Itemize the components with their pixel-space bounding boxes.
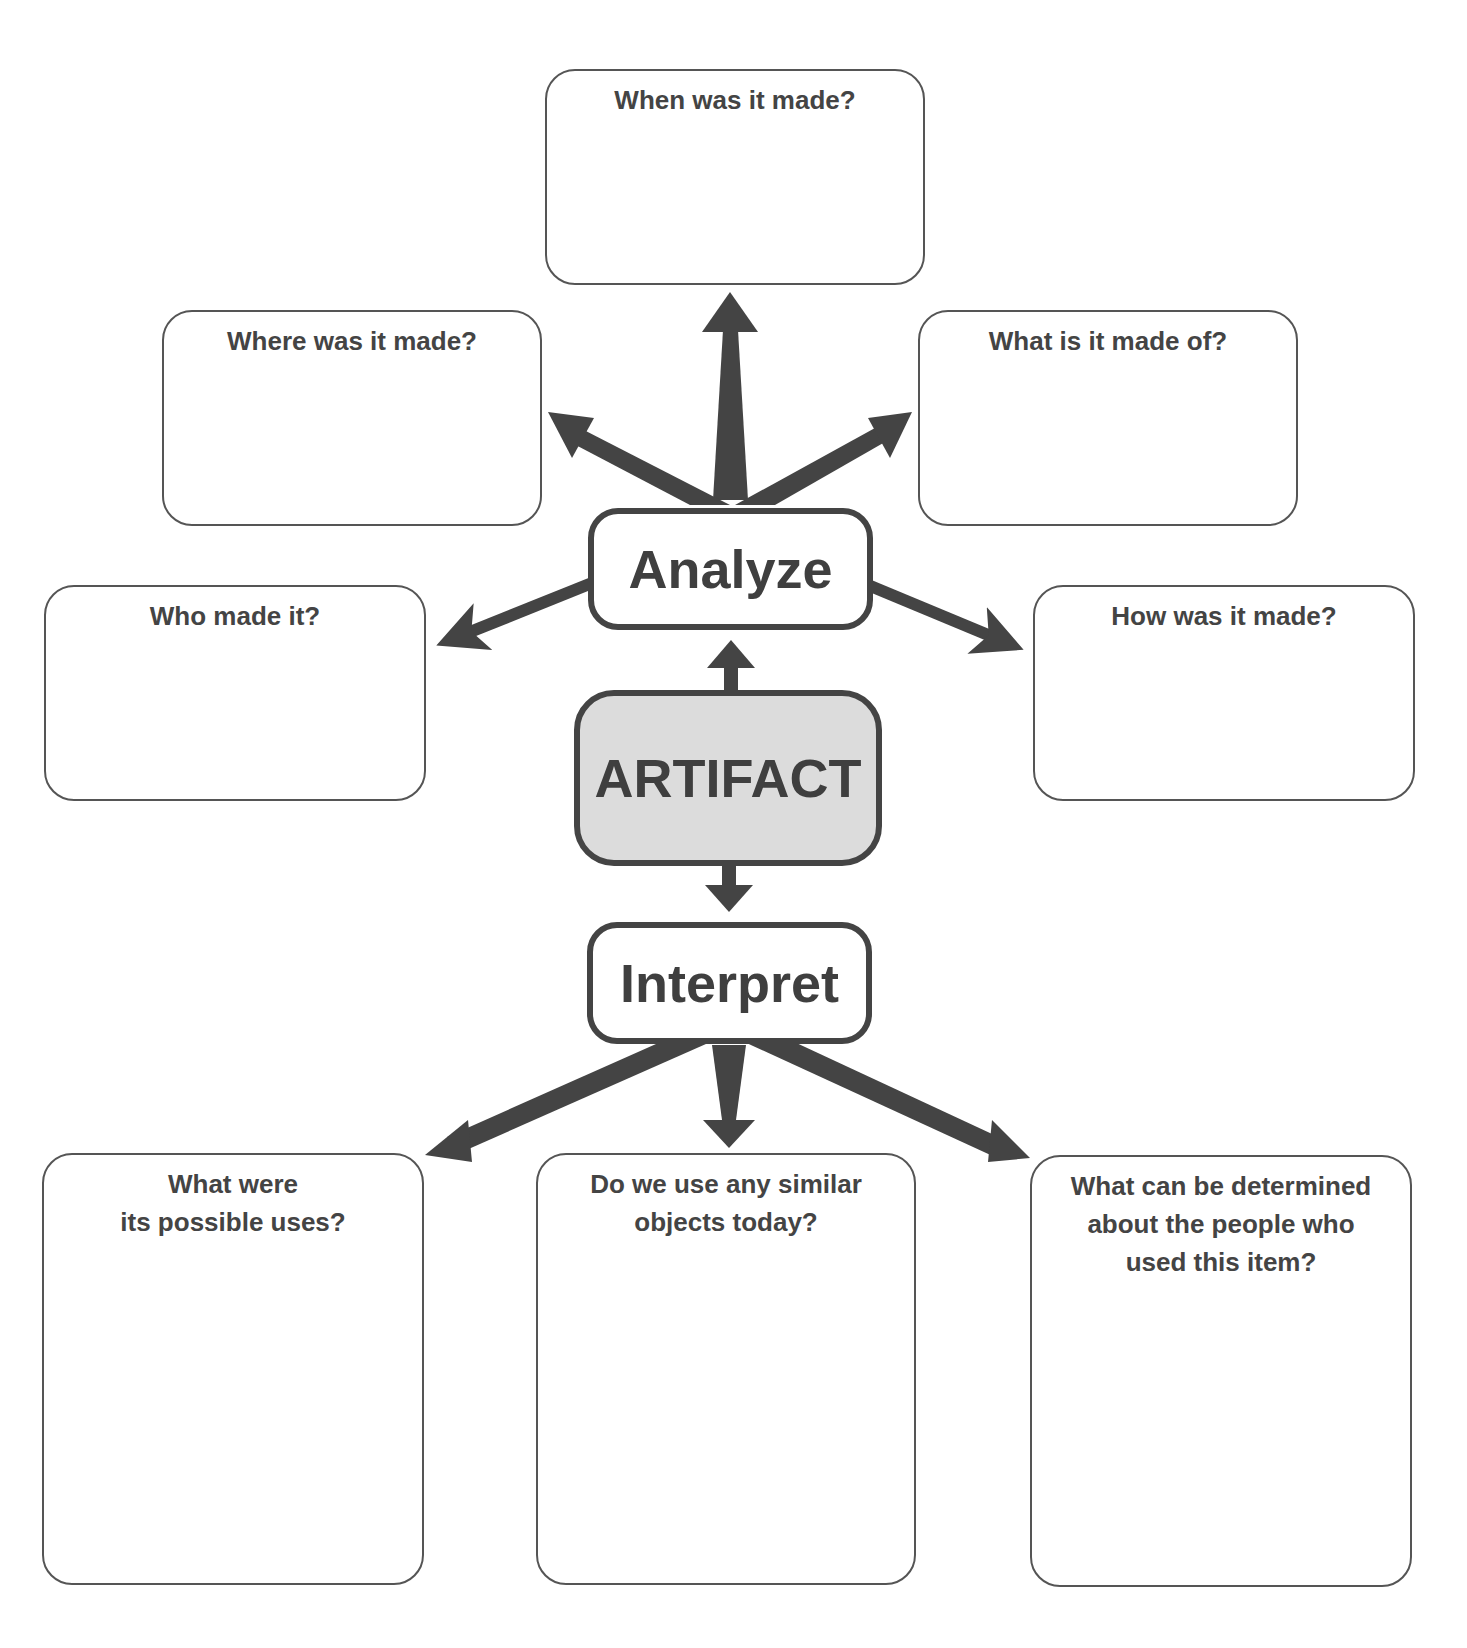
artifact-label: ARTIFACT xyxy=(595,747,862,809)
question-people-text: What can be determined about the people … xyxy=(1032,1167,1410,1281)
artifact-node: ARTIFACT xyxy=(574,690,882,866)
question-where-text: Where was it made? xyxy=(164,322,540,360)
question-when-text: When was it made? xyxy=(547,81,923,119)
question-uses-text: What were its possible uses? xyxy=(44,1165,422,1241)
question-how-text: How was it made? xyxy=(1035,597,1413,635)
question-box-when: When was it made? xyxy=(545,69,925,285)
question-box-material: What is it made of? xyxy=(918,310,1298,526)
analyze-arrows xyxy=(548,292,912,505)
question-similar-text: Do we use any similar objects today? xyxy=(538,1165,914,1241)
interpret-arrows xyxy=(425,1040,1030,1162)
question-box-where: Where was it made? xyxy=(162,310,542,526)
question-box-uses: What were its possible uses? xyxy=(42,1153,424,1585)
interpret-node: Interpret xyxy=(587,922,872,1044)
analyze-node: Analyze xyxy=(588,508,873,630)
question-box-similar: Do we use any similar objects today? xyxy=(536,1153,916,1585)
question-who-text: Who made it? xyxy=(46,597,424,635)
question-box-how: How was it made? xyxy=(1033,585,1415,801)
question-box-who: Who made it? xyxy=(44,585,426,801)
question-box-people: What can be determined about the people … xyxy=(1030,1155,1412,1587)
question-material-text: What is it made of? xyxy=(920,322,1296,360)
interpret-label: Interpret xyxy=(620,952,839,1014)
analyze-label: Analyze xyxy=(628,538,832,600)
